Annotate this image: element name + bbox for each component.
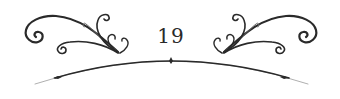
page-number: 19 — [150, 24, 192, 48]
right-flourish-icon — [214, 15, 316, 54]
flourish-ornament-icon — [0, 0, 340, 99]
left-flourish-icon — [26, 15, 128, 54]
arc-divider-icon — [35, 61, 308, 84]
arc-markers-icon — [53, 57, 289, 79]
